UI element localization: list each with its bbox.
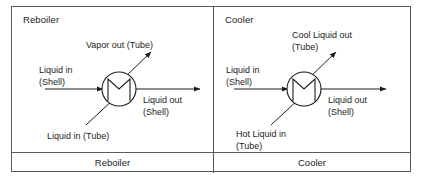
label-tube-out: Cool Liquid out (Tube) (292, 30, 352, 53)
label-tube-in: Liquid in (Tube) (47, 131, 109, 143)
label-shell-out: Liquid out (Shell) (143, 95, 182, 118)
panel-reboiler: Reboiler (12, 7, 213, 152)
caption-reboiler: Reboiler (12, 153, 213, 172)
label-shell-in: Liquid in (Shell) (39, 65, 73, 88)
diagram-table-frame: Reboiler (11, 6, 411, 172)
label-shell-in: Liquid in (Shell) (226, 65, 260, 88)
panel-cooler: Cooler (214, 7, 415, 152)
caption-cooler: Cooler (214, 153, 410, 172)
label-tube-in: Hot Liquid in (Tube) (236, 129, 286, 152)
process-flow-diagram-figure: Reboiler (0, 0, 424, 185)
label-shell-out: Liquid out (Shell) (328, 95, 367, 118)
label-tube-out: Vapor out (Tube) (86, 40, 153, 52)
